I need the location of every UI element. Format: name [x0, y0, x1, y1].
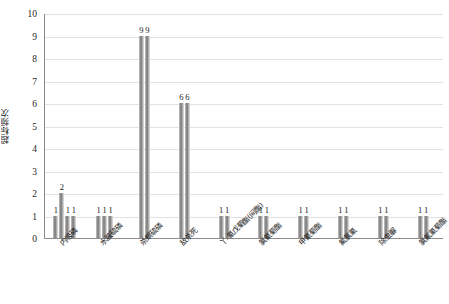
y-tick-label: 4: [3, 144, 37, 154]
bar-value-label: 1: [66, 206, 70, 215]
bar-value-label: 1: [72, 206, 76, 215]
bar-group: 66: [164, 14, 204, 238]
bar-value-label: 1: [344, 206, 348, 215]
y-tick-label: 10: [3, 9, 37, 19]
bar-item[interactable]: 1: [338, 14, 343, 238]
bar-item[interactable]: 1: [108, 14, 113, 238]
bar[interactable]: [219, 216, 224, 239]
bar[interactable]: [418, 216, 423, 239]
bar-chart: 超标频次 109876543210 1211111996611111111111…: [0, 0, 449, 304]
bar[interactable]: [59, 193, 64, 238]
bar-value-label: 1: [225, 206, 229, 215]
bar-item[interactable]: 1: [418, 14, 423, 238]
bar-item[interactable]: 1: [102, 14, 107, 238]
bar-group: 11: [403, 14, 443, 238]
bar-value-label: 1: [219, 206, 223, 215]
bar-item[interactable]: 6: [185, 14, 190, 238]
y-tick-label: 9: [3, 32, 37, 42]
bar-group: 11: [204, 14, 244, 238]
bar-item[interactable]: 1: [219, 14, 224, 238]
bar-item[interactable]: 1: [53, 14, 58, 238]
y-axis-tick-labels: 109876543210: [0, 0, 43, 304]
y-tick-label: 3: [3, 167, 37, 177]
bar-value-label: 1: [338, 206, 342, 215]
bar-group: 11: [324, 14, 364, 238]
bar[interactable]: [96, 216, 101, 239]
bar-item[interactable]: 1: [384, 14, 389, 238]
bar-item[interactable]: 1: [424, 14, 429, 238]
y-tick-label: 8: [3, 54, 37, 64]
bar-item[interactable]: 1: [298, 14, 303, 238]
bar-value-label: 1: [305, 206, 309, 215]
bar-item[interactable]: 1: [71, 14, 76, 238]
bar[interactable]: [185, 103, 190, 238]
bar-value-label: 1: [378, 206, 382, 215]
bar-value-label: 9: [145, 26, 149, 35]
y-tick-label: 2: [3, 189, 37, 199]
bar-item[interactable]: 1: [344, 14, 349, 238]
bar-value-label: 1: [418, 206, 422, 215]
bar-group: 11: [284, 14, 324, 238]
y-tick-label: 6: [3, 99, 37, 109]
plot-area: 12111119966111111111111: [44, 14, 443, 239]
bar[interactable]: [179, 103, 184, 238]
bar-value-label: 1: [109, 206, 113, 215]
bar-value-label: 1: [384, 206, 388, 215]
y-tick-label: 5: [3, 122, 37, 132]
bar-group: 1211: [45, 14, 85, 238]
bar-value-label: 1: [299, 206, 303, 215]
y-tick-label: 1: [3, 212, 37, 222]
bar-value-label: 6: [179, 93, 183, 102]
bar-value-label: 9: [139, 26, 143, 35]
bar-value-label: 1: [54, 206, 58, 215]
bar-group: 11: [363, 14, 403, 238]
bar-value-label: 6: [185, 93, 189, 102]
bar-item[interactable]: 1: [96, 14, 101, 238]
bar-item[interactable]: 1: [378, 14, 383, 238]
bar-item[interactable]: 6: [179, 14, 184, 238]
bar-item[interactable]: 9: [139, 14, 144, 238]
bar-group: 111: [85, 14, 125, 238]
bar-value-label: 1: [424, 206, 428, 215]
y-tick-label: 7: [3, 77, 37, 87]
bar-item[interactable]: 1: [65, 14, 70, 238]
bar-item[interactable]: 1: [264, 14, 269, 238]
bar-item[interactable]: 9: [145, 14, 150, 238]
bar-value-label: 1: [97, 206, 101, 215]
y-tick-label: 0: [3, 234, 37, 244]
bar-group: 99: [125, 14, 165, 238]
bar[interactable]: [139, 36, 144, 239]
bar-item[interactable]: 2: [59, 14, 64, 238]
bar-value-label: 2: [60, 183, 64, 192]
bar-value-label: 1: [103, 206, 107, 215]
bar-groups: 12111119966111111111111: [45, 14, 443, 238]
bar-item[interactable]: 1: [304, 14, 309, 238]
x-axis-category-labels: 内吸磷水胺硫磷杀螟硫磷敌杀死丫-氰戊菊酯(间酯)氯氰菊酯甲氰菊酯氟氯氰除虫脲氯氟…: [44, 240, 443, 304]
bar[interactable]: [53, 216, 58, 239]
bar-item[interactable]: 1: [225, 14, 230, 238]
bar[interactable]: [145, 36, 150, 239]
